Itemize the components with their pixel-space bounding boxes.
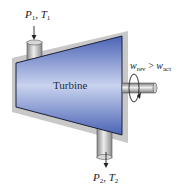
work-relation-label: wrev > wact <box>130 61 171 73</box>
inlet-state-label: P1, T1 <box>25 9 50 22</box>
inlet-arrow-icon <box>32 26 37 40</box>
turbine-label: Turbine <box>53 80 87 91</box>
inlet-temperature-sub: 1 <box>47 14 51 22</box>
work-rev-symbol: w <box>130 60 137 71</box>
outlet-state-label: P2, T2 <box>93 172 118 185</box>
outlet-temperature-sub: 2 <box>115 177 119 185</box>
outlet-pipe <box>97 128 112 160</box>
work-act-symbol: w <box>156 60 163 71</box>
work-operator: > <box>146 60 157 71</box>
shaft-icon <box>122 83 157 93</box>
inlet-pressure-symbol: P <box>25 8 32 20</box>
work-rev-sub: rev <box>137 65 146 73</box>
outlet-pressure-symbol: P <box>93 171 100 183</box>
turbine-diagram <box>0 0 192 188</box>
work-act-sub: act <box>163 65 171 73</box>
